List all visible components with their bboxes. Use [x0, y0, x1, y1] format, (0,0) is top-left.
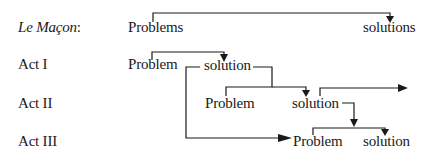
node-act3-problem: Problem: [293, 134, 342, 149]
arrow-down-icon: [350, 119, 358, 127]
row-label-act-3: Act III: [18, 134, 57, 149]
row-label-act-2: Act II: [18, 96, 52, 111]
edge-act2-problem-solution: [272, 87, 306, 92]
node-act2-solution: solution: [292, 96, 339, 111]
node-act1-problem: Problem: [128, 57, 177, 72]
node-act2-problem: Problem: [205, 96, 254, 111]
node-le-macon-problems: Problems: [128, 20, 183, 35]
row-label-text: Le Maçon: [18, 19, 77, 35]
arrow-right-icon: [278, 134, 292, 142]
row-label-act-1: Act I: [18, 57, 47, 72]
row-label-colon: :: [77, 19, 81, 35]
node-act3-solution: solution: [363, 134, 410, 149]
edge-maçon-problems-solutions: [153, 13, 390, 22]
problem-solution-diagram: Le Maçon: Act I Act II Act III Problems …: [0, 0, 426, 156]
node-le-macon-solutions: solutions: [363, 20, 415, 35]
node-act1-solution: solution: [204, 58, 251, 73]
row-label-le-macon: Le Maçon:: [18, 20, 81, 35]
arrow-right-icon: [398, 84, 408, 92]
